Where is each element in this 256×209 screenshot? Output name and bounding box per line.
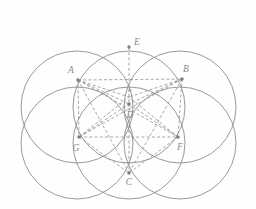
label-e: E [133, 37, 140, 47]
point-f [176, 135, 179, 138]
segment-F-O [129, 97, 178, 137]
segment-B-D [129, 79, 182, 104]
segment-G-C [79, 137, 129, 173]
segment-F-D [129, 104, 178, 137]
point-g [77, 135, 80, 138]
point-d [127, 102, 130, 105]
label-a: A [67, 65, 74, 75]
segment-G-O [79, 97, 129, 137]
label-c: C [126, 177, 133, 187]
segment-A-D [78, 80, 129, 104]
label-d: D [126, 110, 134, 120]
point-a [76, 78, 79, 81]
geometry-figure: ABCDEFGo [0, 0, 256, 209]
label-g: G [73, 143, 80, 153]
point-e [127, 45, 130, 48]
label-f: F [176, 142, 183, 152]
segment-A-G [78, 80, 79, 137]
label-o: o [129, 87, 132, 93]
label-b: B [183, 64, 189, 74]
diagram-canvas: ABCDEFGo [0, 0, 256, 209]
point-c [127, 171, 130, 174]
point-b [180, 77, 183, 80]
segment-A-B [78, 79, 182, 80]
